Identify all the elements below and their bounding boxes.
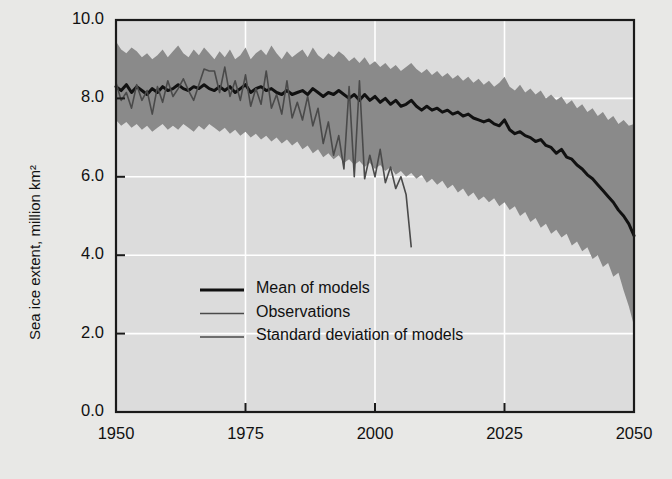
x-tick-label: 2050 [594,424,672,443]
y-tick-label: 2.0 [81,323,104,342]
y-axis-label: Sea ice extent, million km² [26,165,43,340]
y-tick-label: 10.0 [72,9,104,28]
legend-label: Observations [256,303,350,321]
y-tick-label: 8.0 [81,87,104,106]
x-tick-label: 1950 [76,424,156,443]
x-tick-label: 1975 [206,424,286,443]
x-tick-label: 2000 [335,424,415,443]
y-tick-label: 0.0 [81,401,104,420]
x-tick-label: 2025 [465,424,545,443]
y-tick-label: 6.0 [81,166,104,185]
legend-label: Standard deviation of models [256,326,463,344]
legend-label: Mean of models [256,279,370,297]
y-tick-label: 4.0 [81,244,104,263]
